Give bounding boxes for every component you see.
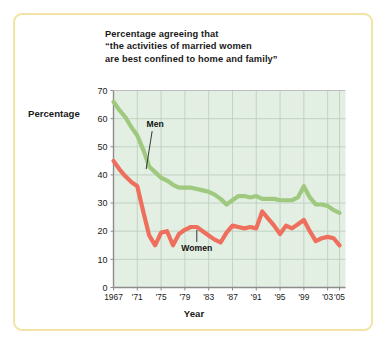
x-tick-label: '79 bbox=[179, 292, 190, 302]
x-tick-label: '91 bbox=[251, 292, 262, 302]
y-tick-label: 40 bbox=[97, 170, 107, 180]
series-label-women: Women bbox=[181, 243, 212, 253]
x-tick-labels: 1967'71'75'79'83'87'91'95'99'03'05 bbox=[104, 288, 345, 302]
y-tick-label: 20 bbox=[97, 226, 107, 236]
y-tick-labels: 010203040506070 bbox=[97, 86, 113, 293]
series-label-men: Men bbox=[147, 119, 164, 129]
x-tick-label: '87 bbox=[227, 292, 238, 302]
x-tick-label: '03 bbox=[322, 292, 333, 302]
y-tick-label: 70 bbox=[97, 86, 107, 96]
x-tick-label: '95 bbox=[275, 292, 286, 302]
chart-plot: 010203040506070 1967'71'75'79'83'87'91'9… bbox=[0, 0, 388, 346]
x-tick-label: '75 bbox=[156, 292, 167, 302]
y-tick-label: 30 bbox=[97, 198, 107, 208]
x-tick-label: '71 bbox=[132, 292, 143, 302]
chart-figure: Percentage agreeing that “the activities… bbox=[0, 0, 388, 346]
x-tick-label: '83 bbox=[203, 292, 214, 302]
x-tick-label: '05 bbox=[334, 292, 345, 302]
y-tick-label: 60 bbox=[97, 114, 107, 124]
y-tick-label: 10 bbox=[97, 255, 107, 265]
x-tick-label: '99 bbox=[298, 292, 309, 302]
x-tick-label: 1967 bbox=[104, 292, 123, 302]
y-tick-label: 50 bbox=[97, 142, 107, 152]
